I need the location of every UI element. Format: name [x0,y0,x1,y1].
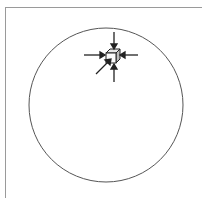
circular-path [29,28,183,182]
arrow-down-icon [111,32,117,49]
arrow-diagonal-icon [96,59,111,74]
arrow-up-icon [111,64,117,82]
arrow-right-icon [84,52,105,58]
arrow-left-icon [120,52,138,58]
diagram-canvas [0,0,204,198]
